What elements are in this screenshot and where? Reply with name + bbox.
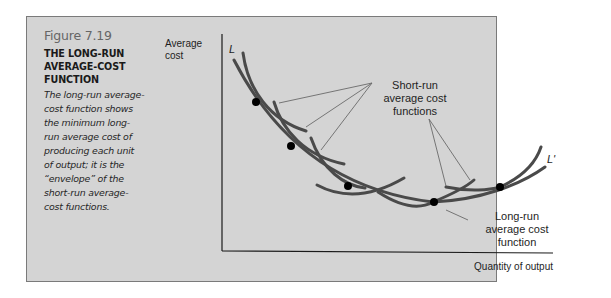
- long-run-average-cost-curve: [234, 60, 545, 202]
- tangent-point: [252, 98, 260, 106]
- long-run-label-line: Long-run: [495, 210, 539, 222]
- curve-label-L-prime: L': [547, 153, 556, 165]
- tangent-point: [344, 182, 352, 190]
- x-axis: [222, 251, 553, 253]
- y-axis-label-line: Average: [165, 38, 203, 49]
- short-run-label-line: average cost: [384, 92, 447, 104]
- long-run-label-line: function: [498, 236, 537, 248]
- y-axis-label-line: cost: [165, 50, 184, 61]
- tangent-point: [287, 142, 295, 150]
- short-run-label-line: Short-run: [392, 79, 438, 91]
- short-run-label-line: functions: [393, 105, 438, 117]
- curve-label-L: L: [229, 43, 235, 55]
- tangent-point: [430, 198, 438, 206]
- short-run-cost-curve-5: [446, 147, 541, 190]
- x-axis-label: Quantity of output: [474, 261, 553, 272]
- cost-diagram: Average cost Quantity of output L L' Sho…: [0, 0, 611, 298]
- tangent-point: [496, 183, 504, 191]
- long-run-leader-line: [446, 210, 468, 220]
- long-run-label-line: average cost: [486, 223, 549, 235]
